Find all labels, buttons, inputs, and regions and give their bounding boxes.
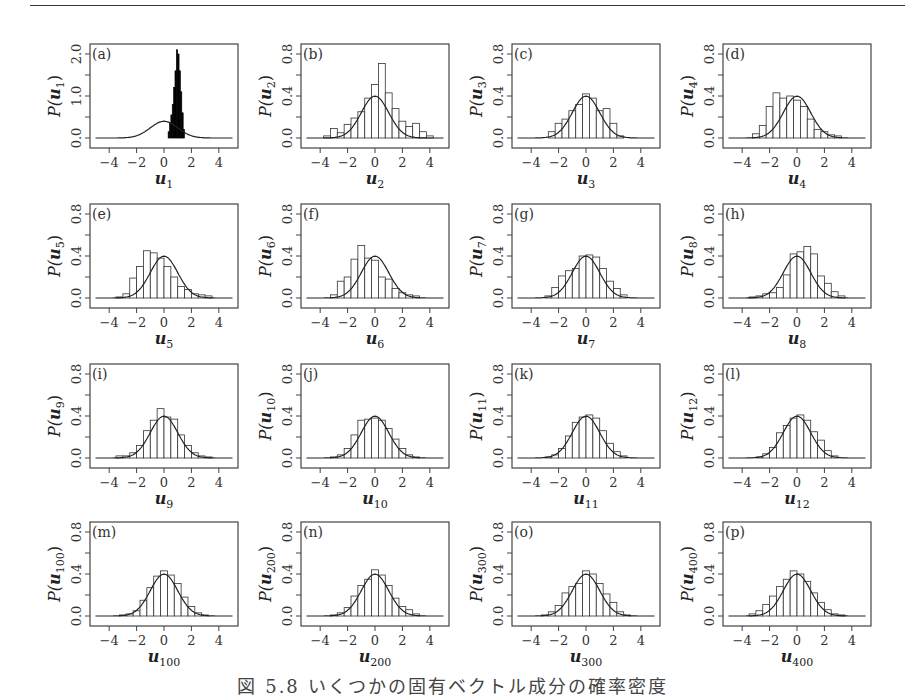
x-tick-label: −4 [522, 633, 541, 648]
histogram-bar [807, 119, 814, 138]
y-axis-label: P(u11) [467, 392, 489, 442]
x-tick-label: −2 [127, 315, 146, 330]
figure-caption: 図 5.8 いくつかの固有ベクトル成分の確率密度 [0, 672, 905, 698]
histogram-bar [766, 107, 773, 139]
histogram-bar [572, 422, 579, 458]
histogram-bar [776, 433, 783, 458]
histogram-bar [378, 575, 385, 616]
histogram-bar [776, 288, 783, 299]
x-tick-label: 2 [187, 315, 195, 330]
histogram-bar [358, 420, 365, 458]
x-tick-label: 0 [371, 475, 379, 490]
histogram-bar [351, 259, 358, 298]
x-tick-label: −4 [733, 475, 752, 490]
y-tick-label: 0.8 [69, 364, 84, 385]
y-tick-label: 0.8 [69, 522, 84, 543]
histogram-bar [413, 123, 420, 138]
histogram-plot: 0.00.40.8−4−2024(l)P(u12)u12 [633, 350, 844, 510]
x-tick-label: 4 [848, 155, 856, 170]
y-tick-label: 0.0 [69, 448, 84, 469]
x-tick-label: 2 [820, 475, 828, 490]
x-tick-label: −2 [549, 475, 568, 490]
x-tick-label: −2 [760, 633, 779, 648]
x-tick-label: 2 [398, 475, 406, 490]
panel-o: 0.00.40.8−4−2024(o)P(u300)u300 [422, 508, 633, 668]
y-axis-label: P(u200) [256, 546, 278, 603]
y-axis-label: P(u9) [45, 395, 67, 438]
histogram-plot: 0.00.40.8−4−2024(g)P(u7)u7 [422, 190, 633, 350]
histogram-bar [392, 598, 399, 616]
panel-d: 0.00.40.8−4−2024(d)P(u4)u4 [633, 30, 844, 190]
y-tick-label: 0.8 [702, 522, 717, 543]
x-tick-label: 0 [793, 633, 801, 648]
y-tick-label: 0.8 [280, 44, 295, 65]
histogram-bar [589, 574, 596, 616]
panel-label: (h) [725, 206, 745, 222]
histogram-bar [800, 107, 807, 139]
y-tick-label: 0.0 [702, 288, 717, 309]
x-tick-label: 4 [848, 475, 856, 490]
y-tick-label: 0.4 [491, 246, 506, 267]
y-tick-label: 0.0 [702, 128, 717, 149]
histogram-bar [167, 575, 174, 616]
histogram-plot: 0.01.02.0−4−2024(a)P(u1)u1 [0, 30, 211, 190]
histogram-bar [147, 588, 154, 616]
x-tick-label: −2 [127, 633, 146, 648]
histogram-bar [783, 275, 790, 298]
y-tick-label: 0.8 [280, 522, 295, 543]
y-tick-label: 0.4 [280, 246, 295, 267]
histogram-plot: 0.00.40.8−4−2024(o)P(u300)u300 [422, 508, 633, 668]
histogram-bar [797, 252, 804, 298]
x-tick-label: −4 [733, 633, 752, 648]
histogram-bar [790, 418, 797, 458]
y-tick-label: 0.0 [491, 448, 506, 469]
x-tick-label: −4 [311, 475, 330, 490]
histogram-bar [344, 124, 351, 138]
x-tick-label: −4 [522, 315, 541, 330]
x-axis-label: u7 [577, 329, 596, 351]
histogram-plot: 0.00.40.8−4−2024(h)P(u8)u8 [633, 190, 844, 350]
y-tick-label: 0.8 [702, 44, 717, 65]
x-tick-label: 2 [398, 155, 406, 170]
histogram-bar [372, 570, 379, 616]
panel-label: (o) [514, 524, 533, 540]
histogram-bar [171, 277, 178, 298]
x-tick-label: 2 [187, 633, 195, 648]
y-axis-label: P(u12) [678, 392, 700, 442]
x-tick-label: 4 [848, 315, 856, 330]
histogram-bar [372, 418, 379, 458]
x-tick-label: −2 [338, 315, 357, 330]
histogram-plot: 0.00.40.8−4−2024(k)P(u11)u11 [422, 350, 633, 510]
x-tick-label: −2 [760, 475, 779, 490]
x-axis-label: u100 [148, 647, 181, 669]
histogram-bar [372, 260, 379, 298]
panel-a: 0.01.02.0−4−2024(a)P(u1)u1 [0, 30, 211, 190]
histogram-bar [365, 579, 372, 616]
histogram-bar [351, 435, 358, 458]
histogram-bar [797, 415, 804, 458]
histogram-bar [178, 286, 185, 298]
panel-label: (a) [92, 46, 111, 62]
histogram-plot: 0.00.40.8−4−2024(f)P(u6)u6 [211, 190, 422, 350]
panel-n: 0.00.40.8−4−2024(n)P(u200)u200 [211, 508, 422, 668]
x-tick-label: −4 [100, 315, 119, 330]
histogram-bar [576, 104, 583, 138]
histogram-bar [183, 130, 184, 138]
histogram-bar [811, 254, 818, 298]
histogram-bar [385, 279, 392, 298]
y-tick-label: 0.4 [69, 564, 84, 585]
y-axis-label: P(u10) [256, 392, 278, 442]
y-tick-label: 0.0 [69, 606, 84, 627]
panel-g: 0.00.40.8−4−2024(g)P(u7)u7 [422, 190, 633, 350]
y-tick-label: 0.4 [280, 564, 295, 585]
x-tick-label: −2 [338, 155, 357, 170]
histogram-bar [596, 111, 603, 138]
x-tick-label: 0 [160, 315, 168, 330]
histogram-bar [562, 593, 569, 616]
y-tick-label: 0.0 [280, 448, 295, 469]
panel-h: 0.00.40.8−4−2024(h)P(u8)u8 [633, 190, 844, 350]
y-tick-label: 0.8 [69, 204, 84, 225]
x-tick-label: −2 [127, 155, 146, 170]
y-tick-label: 0.4 [702, 406, 717, 427]
x-tick-label: 2 [820, 633, 828, 648]
